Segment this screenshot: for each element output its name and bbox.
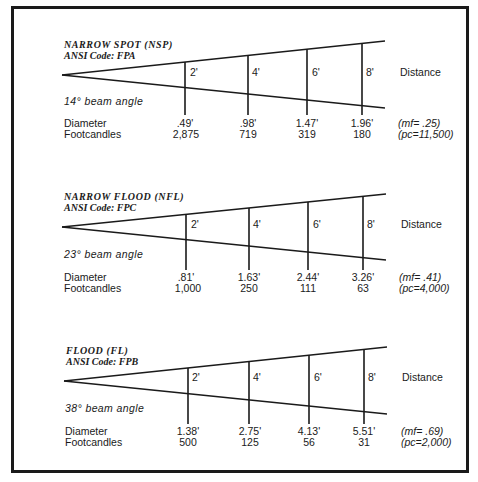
ansi-code: ANSI Code: FPA (64, 50, 136, 61)
footcandles-value: 2,875 (173, 129, 199, 140)
footcandles-value: 250 (240, 283, 258, 294)
distance-label-4: 4' (253, 372, 261, 383)
distance-label-2: 2' (190, 67, 198, 78)
beam-angle: 38° beam angle (65, 403, 144, 414)
distance-label-8: 8' (368, 372, 376, 383)
distance-label-8: 8' (366, 67, 374, 78)
pc-value: (pc=2,000) (401, 437, 452, 448)
distance-label-2: 2' (191, 219, 199, 230)
lamp-title: NARROW SPOT (NSP) (64, 39, 173, 50)
distance-label-4: 4' (253, 219, 261, 230)
lamp-title: FLOOD (FL) (66, 345, 128, 356)
distance-label-2: 2' (192, 372, 200, 383)
distance-label-6: 6' (312, 67, 320, 78)
distance-heading: Distance (401, 219, 442, 230)
footcandles-value: 1,000 (175, 283, 201, 294)
footcandles-value: 111 (300, 283, 316, 294)
footcandles-label: Footcandles (64, 283, 121, 294)
distance-heading: Distance (402, 372, 443, 383)
footcandles-value: 719 (239, 129, 257, 140)
footcandles-value: 63 (357, 283, 369, 294)
beam-angle: 14° beam angle (64, 96, 143, 107)
pc-value: (pc=11,500) (398, 129, 454, 140)
footcandles-value: 180 (353, 129, 371, 140)
beam-angle: 23° beam angle (64, 249, 143, 260)
distance-heading: Distance (400, 67, 441, 78)
distance-label-6: 6' (313, 219, 321, 230)
footcandles-value: 31 (358, 437, 370, 448)
distance-label-4: 4' (252, 67, 260, 78)
ansi-code: ANSI Code: FPC (64, 202, 136, 213)
footcandles-value: 319 (298, 129, 316, 140)
distance-label-6: 6' (314, 372, 322, 383)
footcandles-value: 125 (241, 437, 259, 448)
pc-value: (pc=4,000) (399, 283, 450, 294)
footcandles-label: Footcandles (65, 437, 122, 448)
footcandles-value: 500 (179, 437, 197, 448)
distance-label-8: 8' (367, 219, 375, 230)
ansi-code: ANSI Code: FPB (66, 356, 138, 367)
footcandles-value: 56 (303, 437, 315, 448)
lamp-title: NARROW FLOOD (NFL) (64, 191, 184, 202)
footcandles-label: Footcandles (64, 129, 121, 140)
